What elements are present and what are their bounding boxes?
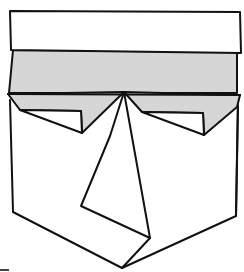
shaded-band <box>9 50 237 93</box>
pocket-diagram <box>0 0 244 272</box>
top-band <box>10 11 241 53</box>
corner-mark <box>0 269 9 271</box>
pocket-illustration <box>0 0 244 272</box>
